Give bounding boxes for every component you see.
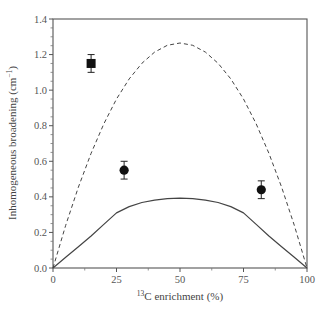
chart: 0.00.20.40.60.81.01.21.4 0255075100 13C … bbox=[0, 0, 329, 314]
series-layer bbox=[53, 43, 307, 268]
y-tick-label: 0.0 bbox=[34, 263, 47, 274]
y-axis-label-text: Inhomogeneous broadening (cm bbox=[6, 77, 19, 220]
circle-marker bbox=[120, 166, 129, 175]
y-tick-label: 1.4 bbox=[34, 14, 48, 25]
y-tick-label: 0.6 bbox=[34, 156, 47, 167]
circle-marker bbox=[257, 185, 266, 194]
x-tick-label: 25 bbox=[111, 274, 122, 285]
y-tick-label: 0.8 bbox=[34, 120, 47, 131]
dashed-curve bbox=[53, 43, 307, 268]
square-marker bbox=[87, 59, 96, 68]
y-axis-label-close: ) bbox=[6, 66, 19, 70]
x-axis-label-text: C enrichment (%) bbox=[144, 290, 223, 303]
y-tick-label: 1.0 bbox=[34, 85, 47, 96]
y-tick-label: 1.2 bbox=[34, 49, 47, 60]
y-tick-label: 0.2 bbox=[34, 227, 47, 238]
y-tick-label: 0.4 bbox=[34, 191, 48, 202]
y-axis-ticks: 0.00.20.40.60.81.01.21.4 bbox=[34, 14, 53, 274]
x-tick-label: 75 bbox=[238, 274, 249, 285]
x-tick-label: 50 bbox=[175, 274, 186, 285]
x-tick-label: 0 bbox=[50, 274, 55, 285]
x-axis-label: 13C enrichment (%) bbox=[137, 289, 224, 303]
y-axis-label: Inhomogeneous broadening (cm−1) bbox=[5, 66, 19, 220]
x-tick-label: 100 bbox=[299, 274, 315, 285]
x-axis-ticks: 0255075100 bbox=[50, 268, 315, 285]
solid-curve bbox=[53, 198, 307, 268]
